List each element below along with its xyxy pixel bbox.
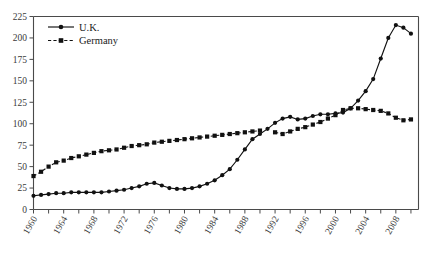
y-tick-label: 175 <box>13 55 28 65</box>
data-point-marker <box>281 132 285 136</box>
data-point-marker <box>62 159 66 163</box>
data-point-marker <box>409 117 413 121</box>
data-point-marker <box>114 189 118 193</box>
data-point-marker <box>228 132 232 136</box>
data-point-marker <box>409 32 413 36</box>
data-point-marker <box>326 116 330 120</box>
data-point-marker <box>92 190 96 194</box>
data-point-marker <box>243 147 247 151</box>
data-point-marker <box>296 117 300 121</box>
data-point-marker <box>99 190 103 194</box>
data-point-marker <box>130 144 134 148</box>
data-point-marker <box>175 187 179 191</box>
y-tick-label: 125 <box>13 98 28 108</box>
data-point-marker <box>39 193 43 197</box>
y-tick-label: 150 <box>13 76 28 86</box>
data-point-marker <box>137 184 141 188</box>
x-tick-label: 1980 <box>172 214 190 236</box>
data-point-marker <box>303 125 307 129</box>
data-point-marker <box>356 106 360 110</box>
x-tick-label: 1964 <box>51 214 69 236</box>
data-point-marker <box>371 108 375 112</box>
data-point-marker <box>250 129 254 133</box>
data-point-marker <box>84 153 88 157</box>
data-point-marker <box>114 147 118 151</box>
data-point-marker <box>145 182 149 186</box>
y-tick-label: 225 <box>13 12 28 22</box>
data-point-marker <box>386 36 390 40</box>
data-point-marker <box>281 116 285 120</box>
legend-label-uk: U.K. <box>79 22 99 33</box>
x-tick-label: 1984 <box>202 214 220 236</box>
data-point-marker <box>145 142 149 146</box>
data-point-marker <box>356 98 360 102</box>
data-point-marker <box>364 107 368 111</box>
data-point-marker <box>296 127 300 131</box>
data-point-marker <box>394 116 398 120</box>
y-tick-label: 0 <box>22 205 27 215</box>
data-point-marker <box>69 190 73 194</box>
data-point-marker <box>318 120 322 124</box>
data-point-marker <box>220 133 224 137</box>
data-point-marker <box>69 156 73 160</box>
data-point-marker <box>62 191 66 195</box>
line-chart: 0255075100125150175200225 19601964196819… <box>0 0 429 257</box>
data-point-marker <box>326 112 330 116</box>
data-point-marker <box>54 191 58 195</box>
data-point-marker <box>311 114 315 118</box>
y-tick-label: 75 <box>18 141 28 151</box>
chart-container: 0255075100125150175200225 19601964196819… <box>0 0 429 257</box>
data-point-marker <box>311 122 315 126</box>
data-point-marker <box>333 113 337 117</box>
data-point-marker <box>205 182 209 186</box>
data-point-marker <box>39 170 43 174</box>
y-axis: 0255075100125150175200225 <box>13 12 34 215</box>
legend-marker-uk <box>59 25 64 30</box>
x-tick-label: 1960 <box>21 214 39 236</box>
data-point-marker <box>137 143 141 147</box>
data-point-marker <box>235 131 239 135</box>
data-point-marker <box>92 151 96 155</box>
x-tick-label: 1988 <box>232 214 250 236</box>
data-point-marker <box>54 160 58 164</box>
data-point-marker <box>213 178 217 182</box>
data-point-marker <box>107 148 111 152</box>
data-point-marker <box>258 128 262 132</box>
data-point-marker <box>167 139 171 143</box>
data-point-marker <box>31 174 35 178</box>
x-tick-label: 1968 <box>81 214 99 236</box>
y-tick-label: 200 <box>13 33 28 43</box>
data-point-marker <box>250 137 254 141</box>
x-tick-label: 1992 <box>263 214 281 236</box>
x-tick-label: 2008 <box>383 214 401 236</box>
data-point-marker <box>401 26 405 30</box>
data-point-marker <box>152 140 156 144</box>
data-point-marker <box>235 158 239 162</box>
data-point-marker <box>205 134 209 138</box>
data-point-marker <box>152 181 156 185</box>
data-point-marker <box>84 190 88 194</box>
x-tick-label: 1976 <box>142 214 160 236</box>
chart-legend: U.K.Germany <box>48 22 119 46</box>
data-point-marker <box>47 165 51 169</box>
x-tick-label: 2004 <box>353 214 371 236</box>
data-point-marker <box>182 187 186 191</box>
data-point-marker <box>379 56 383 60</box>
series-line-germany <box>34 131 260 176</box>
legend-marker-germany <box>59 38 64 43</box>
data-point-marker <box>348 106 352 110</box>
data-point-marker <box>175 138 179 142</box>
data-point-marker <box>160 140 164 144</box>
x-tick-label: 2000 <box>323 214 341 236</box>
data-point-marker <box>197 135 201 139</box>
data-point-marker <box>190 136 194 140</box>
legend-label-germany: Germany <box>79 35 119 46</box>
data-point-marker <box>77 154 81 158</box>
y-tick-label: 100 <box>13 119 28 129</box>
data-series-group <box>31 23 413 198</box>
data-point-marker <box>265 127 269 131</box>
data-point-marker <box>341 108 345 112</box>
data-point-marker <box>371 77 375 81</box>
series-line-uk <box>34 25 411 196</box>
data-point-marker <box>364 89 368 93</box>
